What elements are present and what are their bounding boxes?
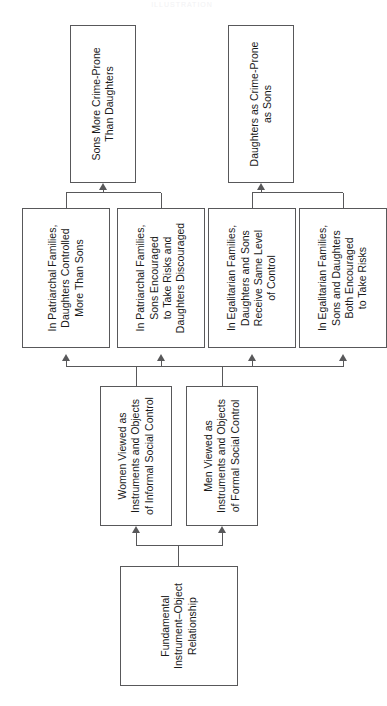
arrowhead-to-women-informal (132, 526, 140, 533)
node-fundamental-instrument-object-relationship: Fundamental Instrument–Object Relationsh… (120, 566, 238, 686)
edge-patriarchal-control-out (66, 193, 67, 208)
node-patriarchal-sons-encouraged-take-risks: In Patriarchal Families, Sons Encouraged… (117, 208, 205, 348)
edge-bus-to-patriarchal-risk (161, 361, 162, 367)
edge-fundamental-to-women (136, 533, 137, 546)
node-men-viewed-as-instruments-formal-social-control: Men Viewed as Instruments and Objects of… (186, 386, 258, 526)
arrowhead-to-egalitarian-control (248, 354, 256, 361)
edge-bus-to-egalitarian-risk (343, 361, 344, 367)
node-daughters-as-crime-prone-as-sons: Daughters as Crime-Prone as Sons (228, 25, 294, 183)
edge-patriarchal-risk-out (161, 193, 162, 208)
edge-level3-distribution-bus (66, 366, 343, 367)
edge-egalitarian-risk-out (343, 193, 344, 208)
arrowhead-to-patriarchal-control (62, 354, 70, 361)
arrowhead-to-egalitarian-risk (339, 354, 347, 361)
edge-patriarchal-merge-bus (66, 192, 161, 193)
edge-bus-to-patriarchal-control (66, 361, 67, 367)
node-women-viewed-as-instruments-informal-social-control: Women Viewed as Instruments and Objects … (100, 386, 172, 526)
node-egalitarian-same-level-of-control: In Egalitarian Families, Daughters and S… (208, 208, 296, 348)
edge-bus-to-egalitarian-control (252, 361, 253, 367)
edge-men-out (222, 367, 223, 386)
arrowhead-to-sons-crime-prone (99, 183, 107, 190)
edge-women-out (136, 367, 137, 386)
edge-fundamental-bus (136, 545, 222, 546)
node-sons-more-crime-prone-than-daughters: Sons More Crime-Prone Than Daughters (70, 25, 136, 183)
arrowhead-to-men-formal (218, 526, 226, 533)
arrowhead-to-patriarchal-risk (157, 354, 165, 361)
arrowhead-to-daughters-crime-prone (257, 183, 265, 190)
node-egalitarian-both-encouraged-take-risks: In Egalitarian Families, Sons and Daught… (299, 208, 387, 348)
edge-fundamental-stem (178, 546, 179, 566)
edge-fundamental-to-men (222, 533, 223, 546)
edge-egalitarian-control-out (252, 193, 253, 208)
edge-egalitarian-merge-stem (261, 190, 262, 193)
node-patriarchal-daughters-controlled-more-than-sons: In Patriarchal Families, Daughters Contr… (22, 208, 110, 348)
edge-patriarchal-merge-stem (103, 190, 104, 193)
edge-egalitarian-merge-bus (252, 192, 343, 193)
